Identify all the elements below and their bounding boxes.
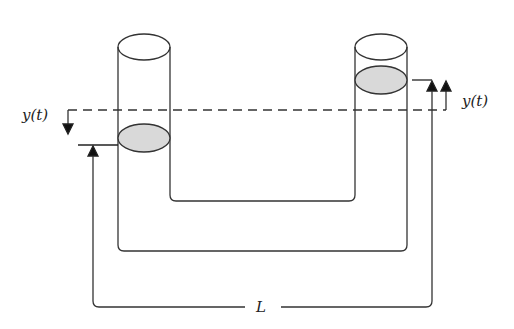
right-displacement-label: y(t) xyxy=(461,92,488,110)
inner-connecting-wall xyxy=(170,195,355,201)
left-displacement-label: y(t) xyxy=(21,106,48,124)
outer-connecting-wall xyxy=(118,245,407,251)
up-arrow-icon xyxy=(427,81,437,91)
left-liquid-surface xyxy=(118,124,170,152)
up-arrow-icon xyxy=(88,146,98,156)
down-arrow-icon xyxy=(63,124,73,134)
right-liquid-surface xyxy=(355,66,407,94)
length-label: L xyxy=(255,298,266,316)
up-arrow-icon xyxy=(441,81,451,91)
u-tube-diagram: y(t) y(t) L xyxy=(0,0,514,329)
